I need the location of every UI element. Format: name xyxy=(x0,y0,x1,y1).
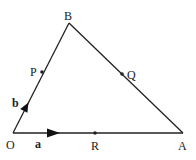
point-q-dot xyxy=(120,72,124,76)
vector-a-arrow-icon xyxy=(47,129,60,138)
edge-ab xyxy=(69,23,183,133)
vertex-b-label: B xyxy=(64,9,72,23)
point-q-label: Q xyxy=(127,68,136,82)
edge-ob xyxy=(13,23,69,133)
vector-a-label: a xyxy=(35,137,41,151)
point-p-label: P xyxy=(30,65,37,79)
point-r-dot xyxy=(93,131,97,135)
triangle-diagram: O A B P Q R a b xyxy=(0,0,196,160)
point-p-dot xyxy=(40,70,44,74)
vertex-o-label: O xyxy=(6,138,15,152)
vector-b-label: b xyxy=(12,96,19,110)
point-r-label: R xyxy=(91,139,99,153)
vertex-a-label: A xyxy=(178,139,187,153)
